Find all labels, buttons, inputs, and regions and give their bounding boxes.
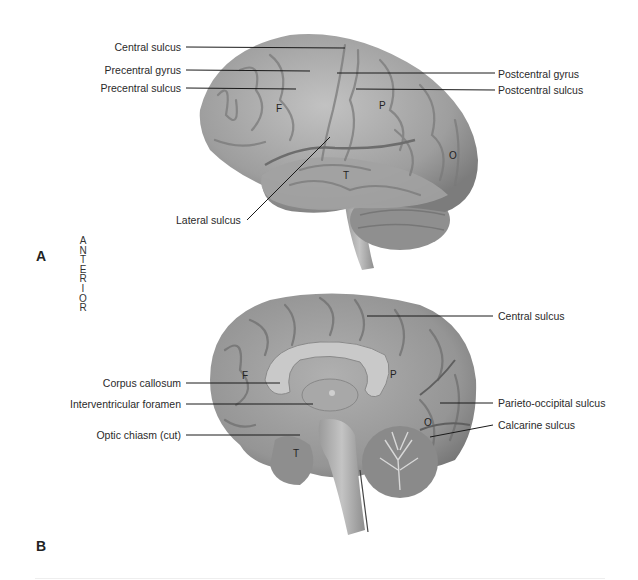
panel-label-a: A (36, 248, 46, 264)
region-frontal-a: F (276, 103, 282, 114)
region-occipital-a: O (449, 150, 457, 161)
region-occipital-b: O (424, 417, 432, 428)
region-temporal-b: T (293, 448, 299, 459)
region-parietal-b: P (390, 369, 397, 380)
orientation-letter: R (78, 303, 88, 313)
bottom-divider (35, 578, 605, 579)
label-postcentral-sulcus: Postcentral sulcus (498, 84, 583, 96)
region-frontal-b: F (242, 370, 248, 381)
label-postcentral-gyrus: Postcentral gyrus (498, 68, 579, 80)
label-corpus-callosum: Corpus callosum (103, 377, 181, 389)
label-calcarine-sulcus: Calcarine sulcus (498, 419, 575, 431)
label-optic-chiasm: Optic chiasm (cut) (96, 429, 181, 441)
midsagittal-brain (210, 294, 476, 535)
label-central-sulcus-a: Central sulcus (114, 41, 181, 53)
figure: Central sulcus Precentral gyrus Precentr… (0, 0, 638, 580)
orientation-anterior: A N T E R I O R (78, 236, 88, 313)
label-central-sulcus-b: Central sulcus (498, 310, 565, 322)
lateral-brain (200, 34, 478, 270)
label-lateral-sulcus: Lateral sulcus (176, 214, 241, 226)
region-temporal-a: T (343, 170, 349, 181)
panel-label-b: B (36, 538, 46, 554)
label-precentral-gyrus: Precentral gyrus (105, 64, 181, 76)
label-interventricular-foramen: Interventricular foramen (70, 398, 181, 410)
label-precentral-sulcus: Precentral sulcus (100, 82, 181, 94)
label-parieto-occipital-sulcus: Parieto-occipital sulcus (498, 397, 605, 409)
region-parietal-a: P (379, 100, 386, 111)
